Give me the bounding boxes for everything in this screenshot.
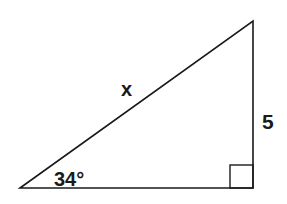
opposite-side-label: 5 (262, 110, 274, 133)
right-angle-marker (230, 165, 253, 188)
angle-label: 34° (54, 168, 84, 190)
triangle-figure: x 5 34° (0, 0, 287, 204)
right-triangle (20, 21, 253, 188)
hypotenuse-label: x (121, 78, 132, 100)
triangle-diagram: x 5 34° (0, 0, 287, 204)
